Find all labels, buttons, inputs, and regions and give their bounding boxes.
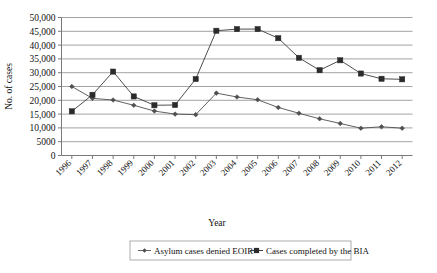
y-axis-tick-labels: 50,00045,00040,00035,00030,00025,00020,0… — [29, 13, 55, 161]
data-point-diamond — [379, 125, 384, 130]
x-tick-label: 2002 — [177, 158, 197, 178]
x-axis-title: Year — [208, 218, 226, 228]
x-tick-label: 2010 — [342, 157, 362, 177]
data-point-diamond — [359, 126, 364, 131]
y-tick-label: 20,000 — [29, 96, 55, 106]
data-series — [69, 26, 405, 130]
data-point-square — [296, 55, 301, 60]
data-point-square — [358, 71, 363, 76]
data-point-diamond — [235, 95, 240, 100]
data-point-square — [90, 92, 95, 97]
series-bia-completed — [69, 26, 405, 113]
x-tick-label: 2006 — [260, 157, 280, 177]
legend-item-bia-completed[interactable]: Cases completed by the BIA — [250, 246, 369, 256]
x-tick-label: 1996 — [53, 157, 73, 177]
data-point-diamond — [297, 111, 302, 116]
line-chart: 50,00045,00040,00035,00030,00025,00020,0… — [0, 0, 437, 273]
x-tick-label: 2000 — [136, 157, 156, 177]
series-asylum-denied-eoir — [70, 84, 405, 130]
grid-lines — [62, 18, 413, 156]
y-tick-label: 15,000 — [29, 110, 55, 120]
x-tick-label: 1997 — [74, 157, 94, 177]
y-tick-label: 40,000 — [29, 41, 55, 51]
x-tick-label: 2012 — [384, 158, 404, 178]
data-point-square — [338, 58, 343, 63]
chart-legend: Asylum cases denied EOIRCases completed … — [130, 241, 369, 260]
y-tick-label: 10,000 — [29, 123, 55, 133]
x-tick-label: 2011 — [363, 158, 383, 178]
x-tick-label: 2005 — [239, 157, 259, 177]
x-tick-label: 2007 — [281, 157, 301, 177]
data-point-diamond — [400, 126, 405, 131]
data-point-square — [172, 102, 177, 107]
data-point-square — [317, 68, 322, 73]
data-point-diamond — [255, 97, 260, 102]
x-tick-label: 1999 — [115, 157, 135, 177]
data-point-diamond — [111, 98, 116, 103]
data-point-square — [152, 103, 157, 108]
x-tick-label: 1998 — [95, 157, 115, 177]
x-tick-label: 2008 — [301, 157, 321, 177]
x-tick-label: 2001 — [157, 158, 177, 178]
y-tick-label: 0 — [51, 151, 56, 161]
y-tick-label: 50,000 — [29, 13, 55, 23]
data-point-diamond — [152, 109, 157, 114]
data-point-square — [379, 76, 384, 81]
legend-item-asylum-denied-eoir[interactable]: Asylum cases denied EOIR — [138, 246, 253, 256]
data-point-square — [214, 28, 219, 33]
data-point-square — [193, 76, 198, 81]
legend-marker-square — [254, 248, 259, 253]
chart-container: 50,00045,00040,00035,00030,00025,00020,0… — [0, 0, 437, 273]
legend-label: Cases completed by the BIA — [266, 246, 369, 256]
data-point-diamond — [70, 84, 75, 89]
data-point-diamond — [131, 103, 136, 108]
data-point-square — [400, 77, 405, 82]
y-tick-label: 5000 — [37, 137, 56, 147]
data-point-diamond — [317, 116, 322, 121]
data-point-square — [276, 36, 281, 41]
data-point-diamond — [276, 105, 281, 110]
data-point-square — [234, 26, 239, 31]
legend-label: Asylum cases denied EOIR — [154, 246, 253, 256]
y-axis-ticks — [58, 18, 62, 156]
x-axis-ticks — [72, 156, 402, 160]
x-tick-label: 2003 — [198, 157, 218, 177]
data-point-square — [69, 109, 74, 114]
data-point-diamond — [173, 112, 178, 117]
x-axis-tick-labels: 1996199719981999200020012002200320042005… — [53, 157, 403, 177]
y-tick-label: 30,000 — [29, 68, 55, 78]
y-tick-label: 45,000 — [29, 27, 55, 37]
x-tick-label: 2004 — [219, 157, 239, 177]
data-point-diamond — [338, 121, 343, 126]
y-axis-title: No. of cases — [4, 63, 14, 110]
series-line — [72, 87, 402, 129]
y-tick-label: 35,000 — [29, 54, 55, 64]
data-point-square — [131, 94, 136, 99]
data-point-square — [111, 69, 116, 74]
y-tick-label: 25,000 — [29, 82, 55, 92]
x-tick-label: 2009 — [322, 157, 342, 177]
data-point-square — [255, 26, 260, 31]
